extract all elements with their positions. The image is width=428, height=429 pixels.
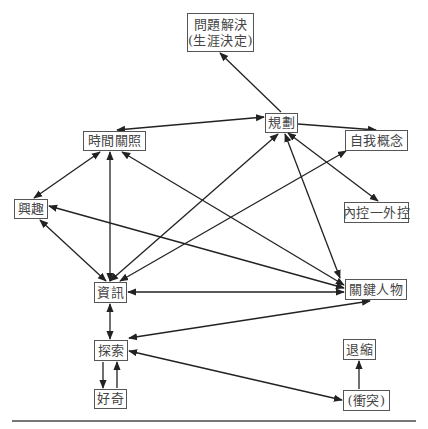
edge-interest-to-key-persons: [49, 206, 344, 288]
node-label: 退縮: [346, 342, 373, 358]
node-label: 問題解決: [194, 17, 248, 33]
node-planning: 規劃: [265, 113, 298, 133]
node-information: 資訊: [94, 282, 127, 303]
node-self-concept: 自我概念: [345, 130, 408, 151]
edge-exploration-to-conflict: [129, 351, 342, 400]
node-label: (衝突): [347, 393, 385, 409]
node-label: (生涯決定): [188, 33, 253, 49]
node-label: 興趣: [18, 201, 45, 217]
node-label: 內控一外控: [343, 205, 411, 221]
node-time-perspective: 時間關照: [83, 131, 146, 151]
node-label: 資訊: [97, 285, 124, 301]
node-label: 關鍵人物: [349, 282, 403, 298]
node-curiosity: 好奇: [94, 389, 127, 409]
edge-information-to-planning: [110, 134, 278, 281]
node-exploration: 探索: [94, 340, 128, 361]
node-label: 規劃: [268, 115, 295, 131]
node-label: 時間關照: [88, 133, 142, 149]
edge-planning-to-time-perspective: [117, 117, 264, 130]
bottom-rule: [12, 420, 416, 422]
node-interest: 興趣: [14, 199, 48, 219]
edge-exploration-to-key-persons: [129, 301, 370, 338]
node-key-persons: 關鍵人物: [345, 279, 407, 300]
node-label: 自我概念: [350, 133, 404, 149]
edge-time-perspective-to-interest: [34, 152, 100, 198]
edge-interest-to-information: [40, 220, 106, 281]
node-conflict: (衝突): [343, 390, 390, 411]
node-locus-of-control: 內控一外控: [344, 202, 409, 223]
node-withdrawal: 退縮: [343, 339, 376, 360]
edge-key-persons-to-planning: [285, 134, 340, 278]
edge-planning-to-problem-solving: [220, 53, 281, 112]
node-label: 探索: [98, 343, 125, 359]
node-problem-solving: 問題解決(生涯決定): [187, 13, 254, 52]
edge-group: [34, 53, 378, 400]
node-label: 好奇: [97, 391, 124, 407]
